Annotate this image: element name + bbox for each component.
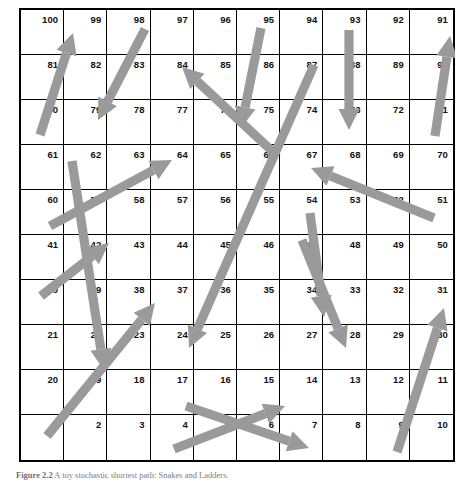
board-cell-37[interactable]: 37 [151, 280, 194, 325]
board-cell-64[interactable]: 64 [151, 145, 194, 190]
board-cell-8[interactable]: 8 [323, 415, 366, 460]
board-cell-20[interactable]: 20 [21, 370, 64, 415]
board-cell-99[interactable]: 99 [64, 10, 107, 55]
board-cell-98[interactable]: 98 [107, 10, 150, 55]
board-cell-53[interactable]: 53 [323, 190, 366, 235]
board-cell-76[interactable]: 76 [194, 100, 237, 145]
board-cell-79[interactable]: 79 [64, 100, 107, 145]
board-cell-69[interactable]: 69 [367, 145, 410, 190]
board-cell-81[interactable]: 81 [21, 55, 64, 100]
board-cell-28[interactable]: 28 [323, 325, 366, 370]
board-cell-18[interactable]: 18 [107, 370, 150, 415]
board-cell-54[interactable]: 54 [280, 190, 323, 235]
board-cell-47[interactable]: 47 [280, 235, 323, 280]
board-cell-27[interactable]: 27 [280, 325, 323, 370]
board-cell-74[interactable]: 74 [280, 100, 323, 145]
board-cell-68[interactable]: 68 [323, 145, 366, 190]
board-cell-95[interactable]: 95 [237, 10, 280, 55]
board-cell-80[interactable]: 80 [21, 100, 64, 145]
board-cell-91[interactable]: 91 [410, 10, 453, 55]
board-cell-52[interactable]: 52 [367, 190, 410, 235]
board-cell-13[interactable]: 13 [323, 370, 366, 415]
board-cell-41[interactable]: 41 [21, 235, 64, 280]
board-cell-3[interactable]: 3 [107, 415, 150, 460]
board-cell-44[interactable]: 44 [151, 235, 194, 280]
board-cell-93[interactable]: 93 [323, 10, 366, 55]
board-cell-84[interactable]: 84 [151, 55, 194, 100]
board-cell-22[interactable]: 22 [64, 325, 107, 370]
board-cell-2[interactable]: 2 [64, 415, 107, 460]
board-cell-12[interactable]: 12 [367, 370, 410, 415]
board-cell-49[interactable]: 49 [367, 235, 410, 280]
board-cell-94[interactable]: 94 [280, 10, 323, 55]
board-cell-38[interactable]: 38 [107, 280, 150, 325]
board-cell-9[interactable]: 9 [367, 415, 410, 460]
board-cell-63[interactable]: 63 [107, 145, 150, 190]
board-cell-25[interactable]: 25 [194, 325, 237, 370]
board-cell-46[interactable]: 46 [237, 235, 280, 280]
board-cell-78[interactable]: 78 [107, 100, 150, 145]
board-cell-72[interactable]: 72 [367, 100, 410, 145]
board-cell-17[interactable]: 17 [151, 370, 194, 415]
board-cell-67[interactable]: 67 [280, 145, 323, 190]
board-cell-92[interactable]: 92 [367, 10, 410, 55]
board-cell-16[interactable]: 16 [194, 370, 237, 415]
board-cell-96[interactable]: 96 [194, 10, 237, 55]
board-cell-89[interactable]: 89 [367, 55, 410, 100]
board-cell-7[interactable]: 7 [280, 415, 323, 460]
board-cell-11[interactable]: 11 [410, 370, 453, 415]
board-cell-70[interactable]: 70 [410, 145, 453, 190]
board-cell-34[interactable]: 34 [280, 280, 323, 325]
board-cell-40[interactable]: 40 [21, 280, 64, 325]
board-cell-56[interactable]: 56 [194, 190, 237, 235]
board-cell-85[interactable]: 85 [194, 55, 237, 100]
board-cell-60[interactable]: 60 [21, 190, 64, 235]
board-cell-50[interactable]: 50 [410, 235, 453, 280]
board-cell-36[interactable]: 36 [194, 280, 237, 325]
board-cell-48[interactable]: 48 [323, 235, 366, 280]
board-cell-5[interactable]: 5 [194, 415, 237, 460]
board-cell-83[interactable]: 83 [107, 55, 150, 100]
board-cell-43[interactable]: 43 [107, 235, 150, 280]
board-cell-88[interactable]: 88 [323, 55, 366, 100]
board-cell-51[interactable]: 51 [410, 190, 453, 235]
board-cell-4[interactable]: 4 [151, 415, 194, 460]
board-cell-59[interactable]: 59 [64, 190, 107, 235]
board-cell-58[interactable]: 58 [107, 190, 150, 235]
board-cell-30[interactable]: 30 [410, 325, 453, 370]
board-cell-90[interactable]: 90 [410, 55, 453, 100]
board-cell-100[interactable]: 100 [21, 10, 64, 55]
board-cell-45[interactable]: 45 [194, 235, 237, 280]
board-cell-14[interactable]: 14 [280, 370, 323, 415]
board-cell-29[interactable]: 29 [367, 325, 410, 370]
board-cell-55[interactable]: 55 [237, 190, 280, 235]
board-cell-1[interactable]: 1 [21, 415, 64, 460]
board-cell-71[interactable]: 71 [410, 100, 453, 145]
board-cell-97[interactable]: 97 [151, 10, 194, 55]
board-cell-57[interactable]: 57 [151, 190, 194, 235]
board-cell-65[interactable]: 65 [194, 145, 237, 190]
board-cell-87[interactable]: 87 [280, 55, 323, 100]
board-cell-21[interactable]: 21 [21, 325, 64, 370]
board-cell-33[interactable]: 33 [323, 280, 366, 325]
board-cell-19[interactable]: 19 [64, 370, 107, 415]
board-cell-26[interactable]: 26 [237, 325, 280, 370]
board-cell-6[interactable]: 6 [237, 415, 280, 460]
board-cell-31[interactable]: 31 [410, 280, 453, 325]
board-cell-15[interactable]: 15 [237, 370, 280, 415]
board-cell-82[interactable]: 82 [64, 55, 107, 100]
board-cell-23[interactable]: 23 [107, 325, 150, 370]
board-cell-42[interactable]: 42 [64, 235, 107, 280]
board-cell-75[interactable]: 75 [237, 100, 280, 145]
board-cell-35[interactable]: 35 [237, 280, 280, 325]
board-cell-32[interactable]: 32 [367, 280, 410, 325]
board-cell-61[interactable]: 61 [21, 145, 64, 190]
board-cell-62[interactable]: 62 [64, 145, 107, 190]
board-cell-86[interactable]: 86 [237, 55, 280, 100]
board-cell-77[interactable]: 77 [151, 100, 194, 145]
board-cell-73[interactable]: 73 [323, 100, 366, 145]
board-cell-24[interactable]: 24 [151, 325, 194, 370]
board-cell-10[interactable]: 10 [410, 415, 453, 460]
board-cell-66[interactable]: 66 [237, 145, 280, 190]
board-cell-39[interactable]: 39 [64, 280, 107, 325]
